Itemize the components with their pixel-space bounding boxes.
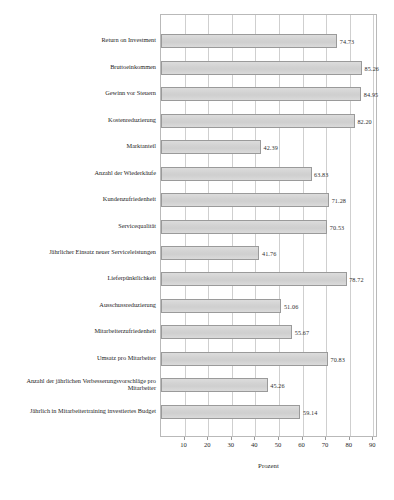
bar-row: 55.67: [161, 325, 376, 339]
bar-value-label: 63.83: [312, 170, 329, 177]
x-tick-mark: [325, 437, 326, 440]
bar-value-label: 42.39: [261, 144, 278, 151]
bar-row: 71.28: [161, 193, 376, 207]
plot-area: 74.7385.2684.9582.2042.3963.8371.2870.53…: [160, 14, 377, 437]
x-tick-mark: [231, 437, 232, 440]
bar-chart: 74.7385.2684.9582.2042.3963.8371.2870.53…: [0, 0, 394, 500]
bar: [161, 325, 292, 339]
category-label: Return on Investment: [2, 36, 156, 44]
category-label: Kundenzufriedenheit: [2, 195, 156, 203]
bar-value-label: 51.06: [281, 302, 298, 309]
bar: [161, 140, 261, 154]
x-tick-label: 20: [204, 441, 211, 448]
x-tick-label: 10: [180, 441, 187, 448]
bar: [161, 405, 300, 419]
category-label: Jährlich in Mitarbeitertraining investie…: [2, 407, 156, 415]
bar-value-label: 70.53: [327, 223, 344, 230]
bar-row: 41.76: [161, 246, 376, 260]
x-tick-label: 90: [369, 441, 376, 448]
category-label: Gewinn vor Steuern: [2, 89, 156, 97]
bar-row: 42.39: [161, 140, 376, 154]
bar-row: 70.83: [161, 352, 376, 366]
x-tick-mark: [302, 437, 303, 440]
x-axis-title: Prozent: [160, 462, 377, 469]
bar-value-label: 45.26: [268, 382, 285, 389]
bar-row: 70.53: [161, 220, 376, 234]
bar-value-label: 85.26: [362, 64, 379, 71]
category-label: Ausschussreduzierung: [2, 301, 156, 309]
x-tick-label: 80: [345, 441, 352, 448]
x-tick-mark: [207, 437, 208, 440]
bar-value-label: 70.83: [328, 355, 345, 362]
bar: [161, 61, 362, 75]
x-tick-label: 30: [227, 441, 234, 448]
bar: [161, 167, 312, 181]
x-tick-label: 50: [275, 441, 282, 448]
bar-row: 78.72: [161, 272, 376, 286]
x-tick-mark: [184, 437, 185, 440]
bar-value-label: 84.95: [361, 91, 378, 98]
bar: [161, 34, 337, 48]
bar-row: 84.95: [161, 87, 376, 101]
bar: [161, 246, 259, 260]
bar: [161, 87, 361, 101]
bar-row: 51.06: [161, 299, 376, 313]
bar: [161, 299, 281, 313]
bar-value-label: 74.73: [337, 38, 354, 45]
x-tick-mark: [278, 437, 279, 440]
bar-value-label: 71.28: [329, 197, 346, 204]
bar-value-label: 41.76: [259, 249, 276, 256]
bar-row: 59.14: [161, 405, 376, 419]
category-label: Anzahl der Wiederkäufe: [2, 169, 156, 177]
category-label: Kostenreduzierung: [2, 116, 156, 124]
bar: [161, 220, 327, 234]
bar: [161, 352, 328, 366]
bar-value-label: 78.72: [347, 276, 364, 283]
x-tick-mark: [349, 437, 350, 440]
category-label: Jährlicher Einsatz neuer Serviceleistung…: [2, 248, 156, 256]
category-label: Bruttoeinkommen: [2, 63, 156, 71]
category-label: Marktanteil: [2, 142, 156, 150]
bar-value-label: 59.14: [300, 408, 317, 415]
bar: [161, 193, 329, 207]
bar-value-label: 82.20: [355, 117, 372, 124]
x-axis: 102030405060708090: [160, 437, 377, 457]
category-label: Lieferpünktlichkeit: [2, 274, 156, 282]
x-tick-label: 60: [298, 441, 305, 448]
bar-row: 45.26: [161, 378, 376, 392]
bar-row: 63.83: [161, 167, 376, 181]
bar: [161, 378, 268, 392]
bar: [161, 272, 347, 286]
bar-row: 74.73: [161, 34, 376, 48]
category-label: Servicequalität: [2, 222, 156, 230]
category-label: Mitarbeiterzufriedenheit: [2, 327, 156, 335]
bar-row: 82.20: [161, 114, 376, 128]
bar: [161, 114, 355, 128]
bar-row: 85.26: [161, 61, 376, 75]
x-tick-mark: [372, 437, 373, 440]
category-label: Umsatz pro Mitarbeiter: [2, 354, 156, 362]
bar-value-label: 55.67: [292, 329, 309, 336]
x-tick-label: 40: [251, 441, 258, 448]
category-label: Anzahl der jährlichen Verbesserungsvorsc…: [2, 377, 156, 392]
x-tick-mark: [254, 437, 255, 440]
x-tick-label: 70: [322, 441, 329, 448]
